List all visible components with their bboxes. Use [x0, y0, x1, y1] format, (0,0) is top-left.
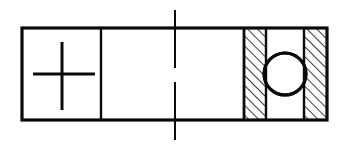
outer-race-hatch	[305, 29, 326, 119]
drawing-canvas	[0, 0, 347, 150]
technical-drawing	[0, 0, 347, 150]
